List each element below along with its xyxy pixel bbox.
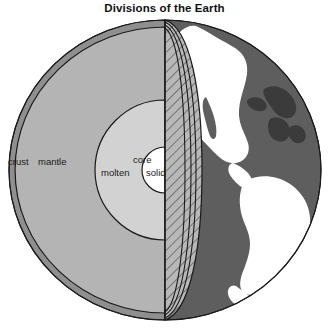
label-mantle: mantle	[38, 157, 67, 167]
cross-section-left-hemisphere	[9, 20, 165, 320]
label-crust: crust	[8, 157, 29, 167]
south-atlantic-islet	[301, 251, 313, 262]
label-molten: molten	[101, 168, 130, 178]
label-solid: solid	[146, 168, 166, 178]
earth-divisions-figure: Divisions of the Earth	[0, 0, 329, 330]
label-core: core	[133, 155, 151, 165]
